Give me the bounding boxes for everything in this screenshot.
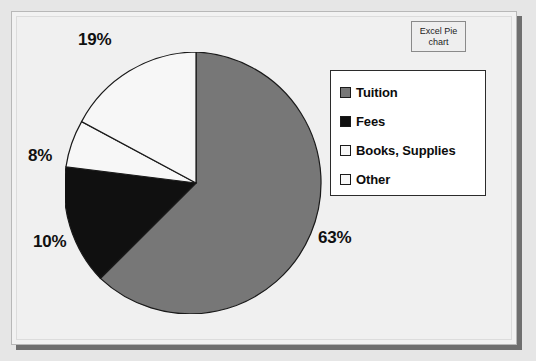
pie-label-fees: 10%: [33, 232, 66, 252]
legend-label-other: Other: [356, 172, 390, 187]
pie-label-tuition: 63%: [318, 228, 351, 248]
legend-swatch-fees: [340, 116, 351, 127]
pie-label-other: 19%: [78, 30, 111, 50]
pie-chart: [65, 52, 327, 314]
legend-swatch-tuition: [340, 87, 351, 98]
screenshot-root: 19% 8% 10% 63% Tuition Fees Books, Suppl…: [0, 0, 536, 361]
callout-line-2: chart: [428, 37, 448, 47]
legend-item-other[interactable]: Other: [331, 165, 485, 194]
legend-item-books-supplies[interactable]: Books, Supplies: [331, 136, 485, 165]
legend-item-fees[interactable]: Fees: [331, 107, 485, 136]
legend-label-fees: Fees: [356, 114, 385, 129]
chart-legend: Tuition Fees Books, Supplies Other: [330, 70, 486, 196]
legend-swatch-other: [340, 174, 351, 185]
legend-label-tuition: Tuition: [356, 85, 398, 100]
legend-label-books-supplies: Books, Supplies: [356, 143, 456, 158]
callout-line-1: Excel Pie: [420, 26, 458, 36]
callout-label: Excel Pie chart: [420, 26, 458, 48]
legend-swatch-books-supplies: [340, 145, 351, 156]
pie-label-books-supplies: 8%: [28, 146, 52, 166]
callout-box[interactable]: Excel Pie chart: [411, 21, 466, 52]
legend-item-tuition[interactable]: Tuition: [331, 78, 485, 107]
pie-chart-svg: [65, 52, 327, 314]
